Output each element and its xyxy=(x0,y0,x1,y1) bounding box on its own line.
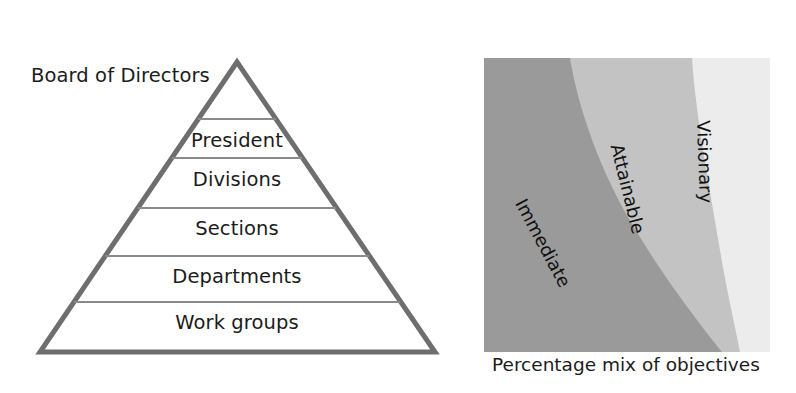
pyramid-level-label-work-groups: Work groups xyxy=(0,313,474,333)
figure-root: Board of Directors President Divisions S… xyxy=(0,0,796,393)
pyramid-graphic xyxy=(0,0,460,393)
pyramid-level-label-sections: Sections xyxy=(0,219,474,239)
chart-caption: Percentage mix of objectives xyxy=(492,356,760,375)
pyramid-level-label-divisions: Divisions xyxy=(0,170,474,190)
percentage-mix-chart-panel: Immediate Attainable Visionary Percentag… xyxy=(460,0,796,393)
pyramid-external-label-board-of-directors: Board of Directors xyxy=(31,66,210,86)
organisation-pyramid-panel: Board of Directors President Divisions S… xyxy=(0,0,460,393)
pyramid-level-label-president: President xyxy=(0,131,474,151)
band-label-visionary: Visionary xyxy=(694,120,715,203)
pyramid-level-label-departments: Departments xyxy=(0,267,474,287)
